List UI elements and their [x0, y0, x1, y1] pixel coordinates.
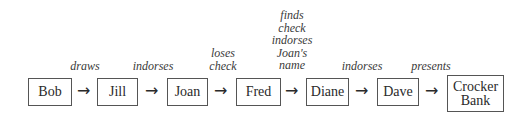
node-bob: Bob — [28, 78, 72, 106]
node-diane: Diane — [306, 78, 349, 106]
arrow-right-icon: → — [355, 83, 368, 99]
arrow-right-icon: → — [145, 83, 158, 99]
node-label: Dave — [383, 85, 413, 99]
arrow-right-icon: → — [285, 83, 298, 99]
node-label: Joan — [175, 85, 201, 99]
arrow-right-icon: → — [425, 83, 438, 99]
node-label-line2: Bank — [461, 94, 491, 108]
edge-label-presents: presents — [409, 60, 453, 73]
node-label: Fred — [246, 85, 272, 99]
edge-label-indorses-2: indorses — [340, 60, 384, 73]
node-label-line1: Crocker — [453, 80, 498, 94]
node-jill: Jill — [97, 78, 138, 106]
node-label: Diane — [311, 85, 344, 99]
node-fred: Fred — [236, 78, 281, 106]
edge-label-draws: draws — [68, 60, 102, 73]
node-crocker-bank: Crocker Bank — [447, 75, 504, 112]
edge-label-finds-check-indorses: finds check indorses Joan's name — [269, 9, 315, 72]
node-joan: Joan — [167, 78, 208, 106]
arrow-right-icon: → — [77, 83, 90, 99]
node-dave: Dave — [377, 78, 419, 106]
node-label: Bob — [38, 85, 61, 99]
arrow-right-icon: → — [214, 83, 227, 99]
edge-label-indorses: indorses — [131, 60, 175, 73]
node-label: Jill — [109, 85, 126, 99]
edge-label-loses-check: loses check — [204, 47, 242, 72]
